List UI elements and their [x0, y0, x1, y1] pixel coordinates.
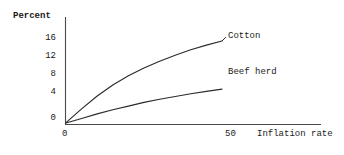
x-axis-title: Inflation rate	[257, 129, 333, 139]
y-tick-label-0: 0	[32, 113, 56, 123]
y-tick-label-12: 12	[32, 51, 56, 61]
y-tick-label-16: 16	[32, 33, 56, 43]
series-label-cotton: Cotton	[228, 31, 260, 41]
cotton-label-leader	[222, 37, 226, 41]
series-line-beef-herd	[66, 89, 222, 123]
y-tick-label-8: 8	[32, 69, 56, 79]
x-tick-label-0: 0	[62, 129, 67, 139]
chart-container: Percent 16 12 8 4 0 0 50 Inflation rate …	[0, 0, 344, 155]
y-tick-label-4: 4	[32, 87, 56, 97]
y-axis-title: Percent	[13, 11, 51, 21]
x-tick-label-50: 50	[225, 129, 236, 139]
series-line-cotton	[66, 41, 222, 123]
series-label-beef-herd: Beef herd	[228, 67, 277, 77]
